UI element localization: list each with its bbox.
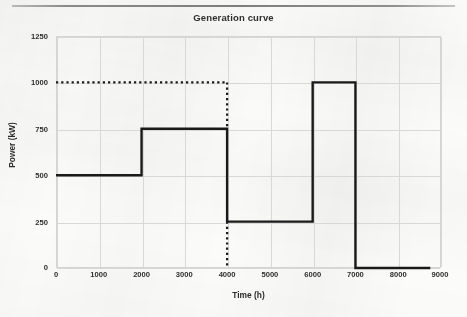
gridline-horizontal — [57, 176, 440, 177]
gridline-vertical — [185, 37, 186, 267]
y-tick-label: 1000 — [0, 78, 48, 87]
page-header-rule — [12, 5, 455, 7]
x-tick-label: 2000 — [133, 270, 150, 279]
gridline-vertical — [143, 37, 144, 267]
x-tick-label: 9000 — [432, 270, 449, 279]
y-tick-label: 250 — [0, 217, 48, 226]
gridline-horizontal — [57, 130, 440, 131]
y-tick-label: 1250 — [0, 32, 48, 41]
y-axis-title: Power (kW) — [7, 105, 17, 185]
gridline-vertical — [228, 37, 229, 267]
x-tick-label: 1000 — [90, 270, 107, 279]
gridline-horizontal — [57, 268, 440, 269]
x-axis-title: Time (h) — [56, 290, 441, 300]
plot-area — [56, 36, 441, 268]
chart-figure: Generation curve 1250 1000 750 500 250 0… — [0, 0, 467, 317]
gridline-vertical — [57, 37, 58, 267]
gridline-vertical — [271, 37, 272, 267]
x-tick-label: 6000 — [304, 270, 321, 279]
x-tick-label: 5000 — [261, 270, 278, 279]
x-tick-label: 3000 — [176, 270, 193, 279]
gridline-horizontal — [57, 83, 440, 84]
x-tick-label: 4000 — [219, 270, 236, 279]
y-tick-label: 0 — [0, 263, 48, 272]
gridline-vertical — [356, 37, 357, 267]
x-tick-label: 7000 — [347, 270, 364, 279]
gridline-horizontal — [57, 223, 440, 224]
gridline-vertical — [399, 37, 400, 267]
gridline-vertical — [314, 37, 315, 267]
gridline-vertical — [441, 37, 442, 267]
x-axis-tick-labels: 0 1000 2000 3000 4000 5000 6000 7000 800… — [56, 270, 441, 284]
x-tick-label: 8000 — [390, 270, 407, 279]
gridline-horizontal — [57, 37, 440, 38]
gridline-vertical — [100, 37, 101, 267]
chart-title: Generation curve — [0, 12, 467, 23]
x-tick-label: 0 — [54, 270, 58, 279]
